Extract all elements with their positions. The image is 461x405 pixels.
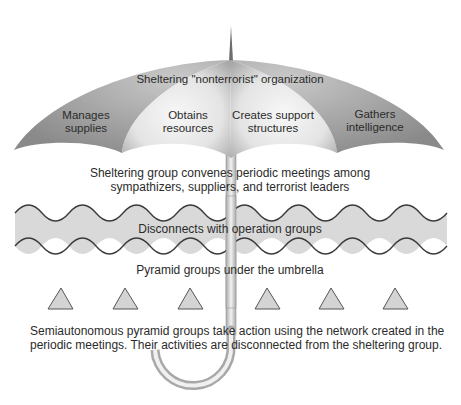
panel-creates-support-structures: Creates support structures <box>228 109 318 135</box>
panel-manages-supplies: Manages supplies <box>50 109 122 135</box>
pyramid-triangle <box>319 288 344 309</box>
umbrella-tip <box>229 26 233 61</box>
pyramids-label: Pyramid groups under the umbrella <box>130 264 330 278</box>
panel-gathers-intelligence: Gathers intelligence <box>335 108 415 134</box>
panel-obtains-resources: Obtains resources <box>150 109 226 135</box>
pyramid-triangle <box>178 288 203 309</box>
pyramid-triangle <box>48 288 73 309</box>
umbrella-shaft-front <box>226 196 236 308</box>
meetings-text: Sheltering group convenes periodic meeti… <box>80 167 380 194</box>
pyramid-triangle <box>113 288 138 309</box>
pyramid-triangle <box>383 288 408 309</box>
band-label: Disconnects with operation groups <box>130 223 330 237</box>
footer-text: Semiautonomous pyramid groups take actio… <box>30 325 430 352</box>
canopy-title: Sheltering "nonterrorist" organization <box>130 73 330 86</box>
pyramid-triangle <box>255 288 280 309</box>
